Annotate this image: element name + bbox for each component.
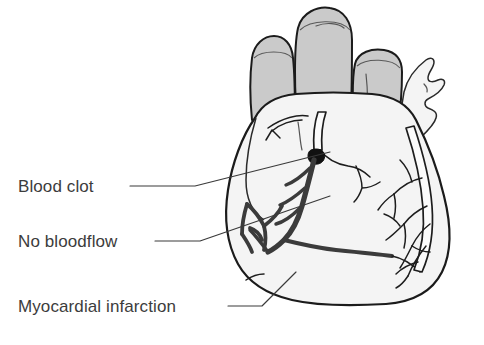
myocardial-infarction-figure: Blood clot No bloodflow Myocardial infar… [0,0,484,345]
label-blood-clot: Blood clot [18,177,94,196]
label-no-bloodflow: No bloodflow [18,232,118,251]
infarct-left-stem [264,226,266,250]
label-myocardial-infarction: Myocardial infarction [18,297,176,316]
